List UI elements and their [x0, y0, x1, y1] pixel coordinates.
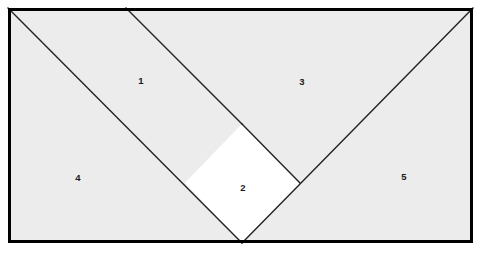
region-2-label: 2 [240, 182, 245, 193]
figure-root: 1 2 3 4 5 [0, 0, 483, 259]
region-5-label: 5 [401, 171, 407, 182]
region-4-label: 4 [75, 172, 81, 183]
region-1-label: 1 [138, 75, 144, 86]
regions-group [8, 8, 473, 243]
geometry-figure: 1 2 3 4 5 [0, 0, 483, 259]
region-3-label: 3 [299, 76, 304, 87]
